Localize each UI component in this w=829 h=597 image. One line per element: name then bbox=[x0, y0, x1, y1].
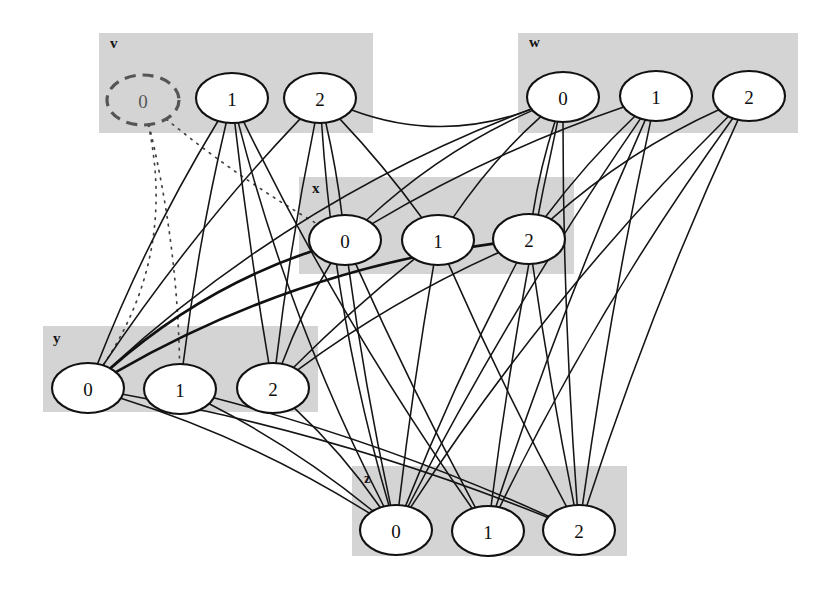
value-node-z0[interactable]: 0 bbox=[360, 505, 432, 555]
edges-layer bbox=[98, 107, 739, 518]
value-label-x0: 0 bbox=[340, 231, 350, 252]
value-node-y2[interactable]: 2 bbox=[237, 363, 309, 413]
value-label-y2: 2 bbox=[268, 379, 278, 400]
value-label-x2: 2 bbox=[524, 230, 534, 251]
value-node-w0[interactable]: 0 bbox=[527, 72, 599, 122]
value-label-w1: 1 bbox=[651, 87, 661, 108]
edge-w1-z2 bbox=[583, 121, 651, 505]
edge-w2-z0 bbox=[411, 117, 729, 508]
group-label-y: y bbox=[53, 330, 61, 346]
group-label-v: v bbox=[110, 35, 118, 51]
value-label-y0: 0 bbox=[83, 379, 93, 400]
value-node-y1[interactable]: 1 bbox=[144, 364, 216, 414]
value-label-w2: 2 bbox=[744, 87, 754, 108]
group-label-w: w bbox=[529, 34, 540, 50]
value-node-w1[interactable]: 1 bbox=[620, 71, 692, 121]
value-label-z1: 1 bbox=[483, 522, 493, 543]
edge-y0-z0 bbox=[121, 398, 369, 513]
value-label-v0: 0 bbox=[138, 91, 148, 112]
group-label-x: x bbox=[312, 180, 320, 196]
value-node-z1[interactable]: 1 bbox=[452, 506, 524, 556]
value-label-v1: 1 bbox=[227, 89, 237, 110]
value-node-x0[interactable]: 0 bbox=[309, 215, 381, 265]
edge-w2-z2 bbox=[587, 120, 738, 506]
value-node-x1[interactable]: 1 bbox=[402, 215, 474, 265]
constraint-graph: 012012012012012 vwxyz bbox=[0, 0, 829, 597]
value-node-x2[interactable]: 2 bbox=[493, 214, 565, 264]
edge-w2-z1 bbox=[500, 118, 733, 507]
value-label-v2: 2 bbox=[315, 89, 325, 110]
diagram-canvas: 012012012012012 vwxyz bbox=[0, 0, 829, 597]
value-label-w0: 0 bbox=[558, 88, 568, 109]
value-node-v2[interactable]: 2 bbox=[284, 73, 356, 123]
value-label-x1: 1 bbox=[433, 231, 443, 252]
value-node-v1[interactable]: 1 bbox=[196, 73, 268, 123]
group-label-z: z bbox=[364, 470, 371, 486]
value-node-w2[interactable]: 2 bbox=[713, 71, 785, 121]
value-label-z0: 0 bbox=[391, 521, 401, 542]
value-node-z2[interactable]: 2 bbox=[543, 505, 615, 555]
value-label-z2: 2 bbox=[574, 521, 584, 542]
value-label-y1: 1 bbox=[175, 380, 185, 401]
value-node-y0[interactable]: 0 bbox=[52, 363, 124, 413]
